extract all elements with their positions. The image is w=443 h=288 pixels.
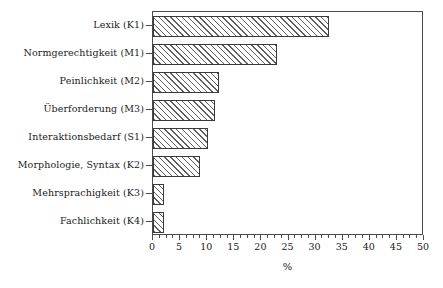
x-axis-minor-tick-mark <box>274 235 275 238</box>
y-axis-tick-label: Überforderung (M3) <box>0 104 144 114</box>
x-axis-minor-tick-mark <box>376 235 377 238</box>
x-axis-tick-mark <box>369 235 370 240</box>
x-axis-title: % <box>152 261 423 273</box>
x-axis-tick-label: 40 <box>354 241 384 252</box>
x-axis-tick-mark <box>315 235 316 240</box>
x-axis-tick-mark <box>423 235 424 240</box>
y-axis-tick-mark <box>146 137 152 138</box>
bar <box>153 16 329 37</box>
x-axis-minor-tick-mark <box>186 235 187 238</box>
x-axis-tick-mark <box>152 235 153 240</box>
bar <box>153 184 164 205</box>
bar-chart: Lexik (K1)Normgerechtigkeit (M1)Peinlich… <box>0 0 443 288</box>
y-axis-tick-label: Morphologie, Syntax (K2) <box>0 160 144 170</box>
x-axis-minor-tick-mark <box>199 235 200 238</box>
x-axis-minor-tick-mark <box>301 235 302 238</box>
x-axis-minor-tick-mark <box>328 235 329 238</box>
x-axis-tick-label: 45 <box>381 241 411 252</box>
x-axis-minor-tick-mark <box>362 235 363 238</box>
x-axis-minor-tick-mark <box>403 235 404 238</box>
bar <box>153 156 200 177</box>
x-axis-tick-label: 50 <box>408 241 438 252</box>
x-axis-minor-tick-mark <box>166 235 167 238</box>
x-axis-minor-tick-mark <box>409 235 410 238</box>
x-axis-minor-tick-mark <box>321 235 322 238</box>
bar <box>153 72 219 93</box>
x-axis-minor-tick-mark <box>382 235 383 238</box>
x-axis-tick-label: 5 <box>164 241 194 252</box>
bar <box>153 100 215 121</box>
x-axis-minor-tick-mark <box>416 235 417 238</box>
x-axis-minor-tick-mark <box>227 235 228 238</box>
x-axis-tick-label: 35 <box>327 241 357 252</box>
x-axis-minor-tick-mark <box>281 235 282 238</box>
plot-area <box>152 11 423 235</box>
y-axis-tick-label: Normgerechtigkeit (M1) <box>0 48 144 58</box>
x-axis-tick-mark <box>288 235 289 240</box>
y-axis-tick-mark <box>146 109 152 110</box>
x-axis-minor-tick-mark <box>389 235 390 238</box>
x-axis-tick-mark <box>206 235 207 240</box>
x-axis-minor-tick-mark <box>308 235 309 238</box>
x-axis-minor-tick-mark <box>213 235 214 238</box>
x-axis-minor-tick-mark <box>247 235 248 238</box>
bar <box>153 128 208 149</box>
x-axis-minor-tick-mark <box>240 235 241 238</box>
x-axis-minor-tick-mark <box>193 235 194 238</box>
x-axis-tick-label: 30 <box>300 241 330 252</box>
x-axis-minor-tick-mark <box>159 235 160 238</box>
x-axis-tick-mark <box>342 235 343 240</box>
x-axis-minor-tick-mark <box>355 235 356 238</box>
y-axis-tick-mark <box>146 53 152 54</box>
x-axis-minor-tick-mark <box>172 235 173 238</box>
y-axis-tick-mark <box>146 25 152 26</box>
y-axis-tick-label: Mehrsprachigkeit (K3) <box>0 188 144 198</box>
x-axis-tick-mark <box>233 235 234 240</box>
x-axis-tick-label: 15 <box>218 241 248 252</box>
x-axis-minor-tick-mark <box>335 235 336 238</box>
x-axis-minor-tick-mark <box>254 235 255 238</box>
x-axis-minor-tick-mark <box>348 235 349 238</box>
x-axis-tick-label: 0 <box>137 241 167 252</box>
x-axis-tick-mark <box>179 235 180 240</box>
y-axis-tick-mark <box>146 221 152 222</box>
bar <box>153 44 277 65</box>
y-axis-tick-label: Interaktionsbedarf (S1) <box>0 132 144 142</box>
x-axis-minor-tick-mark <box>220 235 221 238</box>
y-axis-tick-label: Lexik (K1) <box>0 20 144 30</box>
x-axis-minor-tick-mark <box>294 235 295 238</box>
x-axis-tick-label: 10 <box>191 241 221 252</box>
y-axis-tick-mark <box>146 165 152 166</box>
bar <box>153 212 164 233</box>
y-axis-tick-label: Fachlichkeit (K4) <box>0 216 144 226</box>
y-axis-labels: Lexik (K1)Normgerechtigkeit (M1)Peinlich… <box>0 11 144 235</box>
x-axis: 05101520253035404550 <box>152 235 423 243</box>
x-axis-tick-label: 25 <box>273 241 303 252</box>
x-axis-minor-tick-mark <box>267 235 268 238</box>
x-axis-tick-mark <box>260 235 261 240</box>
y-axis-tick-mark <box>146 81 152 82</box>
x-axis-tick-mark <box>396 235 397 240</box>
x-axis-tick-label: 20 <box>245 241 275 252</box>
y-axis-tick-label: Peinlichkeit (M2) <box>0 76 144 86</box>
y-axis-tick-mark <box>146 193 152 194</box>
